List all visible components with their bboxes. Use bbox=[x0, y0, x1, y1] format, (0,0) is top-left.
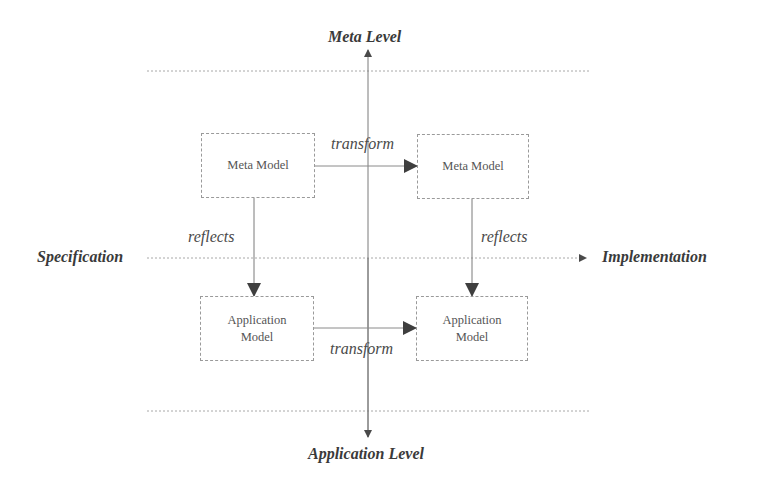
app-transform-label: transform bbox=[330, 340, 393, 358]
box-label-line1: Application bbox=[227, 312, 286, 329]
specification-label: Specification bbox=[37, 248, 123, 266]
meta-model-spec-box: Meta Model bbox=[201, 133, 315, 198]
diagram-canvas bbox=[0, 0, 758, 489]
box-label-line1: Meta Model bbox=[227, 157, 288, 174]
meta-level-label: Meta Level bbox=[328, 28, 401, 46]
spec-reflects-label: reflects bbox=[188, 228, 235, 246]
meta-model-impl-box: Meta Model bbox=[417, 134, 529, 199]
meta-transform-label: transform bbox=[331, 135, 394, 153]
application-model-impl-box: Application Model bbox=[416, 296, 528, 361]
box-label-line2: Model bbox=[227, 329, 286, 346]
box-label-line1: Application bbox=[442, 312, 501, 329]
application-level-label: Application Level bbox=[308, 445, 424, 463]
box-label-line1: Meta Model bbox=[442, 158, 503, 175]
application-model-spec-box: Application Model bbox=[200, 296, 314, 361]
impl-reflects-label: reflects bbox=[481, 228, 528, 246]
box-label-line2: Model bbox=[442, 329, 501, 346]
implementation-label: Implementation bbox=[602, 248, 707, 266]
